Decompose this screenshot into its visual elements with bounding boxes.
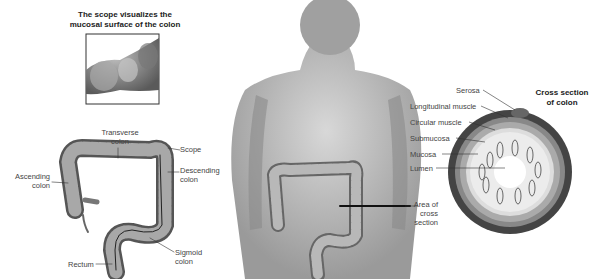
inset-title-line: mucosal surface of the colon xyxy=(60,20,190,30)
label-sigmoid-colon: Sigmoid colon xyxy=(175,248,202,266)
label-mucosa: Mucosa xyxy=(410,150,436,159)
label-descending-colon: Descending colon xyxy=(180,166,220,184)
label-line: Ascending xyxy=(0,172,50,181)
illustration xyxy=(0,0,597,279)
label-scope: Scope xyxy=(180,145,201,154)
inset-title: The scope visualizes the mucosal surface… xyxy=(60,10,190,30)
label-line: colon xyxy=(100,137,140,146)
cross-section-title: Cross section of colon xyxy=(527,88,597,108)
label-line: cross xyxy=(404,209,438,218)
label-line: Transverse xyxy=(100,128,140,137)
label-rectum: Rectum xyxy=(68,260,94,269)
scope-inset xyxy=(86,34,159,104)
title-line: Cross section xyxy=(527,88,597,98)
label-line: section xyxy=(404,218,438,227)
colon-diagram xyxy=(52,148,180,272)
label-transverse-colon: Transverse colon xyxy=(100,128,140,146)
label-serosa: Serosa xyxy=(456,86,480,95)
label-circular-muscle: Circular muscle xyxy=(410,118,462,127)
label-line: Area of xyxy=(404,200,438,209)
label-ascending-colon: Ascending colon xyxy=(0,172,50,190)
label-line: Descending xyxy=(180,166,220,175)
inset-title-line: The scope visualizes the xyxy=(60,10,190,20)
label-area-of-cross-section: Area of cross section xyxy=(404,200,438,227)
label-line: colon xyxy=(180,175,220,184)
label-line: colon xyxy=(175,257,202,266)
title-line: of colon xyxy=(527,98,597,108)
label-line: Sigmoid xyxy=(175,248,202,257)
label-longitudinal-muscle: Longitudinal muscle xyxy=(410,102,476,111)
label-lumen: Lumen xyxy=(410,164,433,173)
label-submucosa: Submucosa xyxy=(410,134,450,143)
label-line: colon xyxy=(0,181,50,190)
